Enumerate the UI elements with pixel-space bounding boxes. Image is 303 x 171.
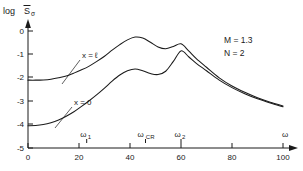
parameter-annotation-group: M = 1.3 N = 2	[224, 35, 253, 58]
special-frequency-group: ω 1 ω CR ω 2 ω	[80, 130, 288, 143]
y-tick-label-5: -5	[17, 144, 25, 153]
x-tick-label-40: 40	[126, 153, 135, 162]
y-axis-title-symbol: S	[24, 6, 30, 16]
x-axis-arrowhead	[289, 145, 298, 151]
curve-x-equals-l	[28, 37, 283, 106]
omega1-subscript: 1	[88, 134, 92, 140]
data-curve-group	[28, 37, 283, 126]
y-axis-arrowhead	[25, 19, 31, 28]
y-axis-title-group: log S σ	[3, 6, 35, 18]
x-tick-label-100: 100	[276, 153, 290, 162]
x-tick-label-80: 80	[228, 153, 237, 162]
y-tick-label-1: -1	[17, 50, 25, 59]
x-tick-label-60: 60	[177, 153, 186, 162]
omegacr-subscript: CR	[146, 134, 155, 140]
curve-label-group: x = ℓ x = 0	[55, 51, 98, 128]
x-tick-label-0: 0	[26, 153, 31, 162]
axis-group	[25, 19, 298, 151]
figure-container: 0 -1 -2 -3 -4 -5 0 20 40 60 80 100 ω	[0, 0, 303, 171]
x-tick-group: 0 20 40 60 80 100	[26, 143, 290, 162]
x-tick-label-20: 20	[75, 153, 84, 162]
y-axis-title-subscript: σ	[31, 10, 35, 17]
omega2-subscript: 2	[182, 134, 186, 140]
y-axis-title-log: log	[3, 6, 15, 16]
curve-upper-label: x = ℓ	[82, 51, 98, 60]
omega1-label: ω	[80, 130, 86, 139]
curve-lower-label: x = 0	[74, 98, 92, 107]
param-m-label: M = 1.3	[224, 35, 253, 45]
y-tick-label-4: -4	[17, 120, 25, 129]
y-tick-label-0: 0	[20, 27, 25, 36]
omegacr-label: ω	[137, 130, 143, 139]
y-tick-label-2: -2	[17, 73, 25, 82]
omega2-label: ω	[175, 130, 181, 139]
chart-canvas: 0 -1 -2 -3 -4 -5 0 20 40 60 80 100 ω	[0, 0, 303, 171]
x-axis-variable-label: ω	[282, 130, 288, 139]
curve-lower-leader-line	[55, 107, 72, 128]
y-tick-label-3: -3	[17, 97, 25, 106]
param-n-label: N = 2	[224, 48, 245, 58]
y-tick-group: 0 -1 -2 -3 -4 -5	[17, 27, 33, 153]
